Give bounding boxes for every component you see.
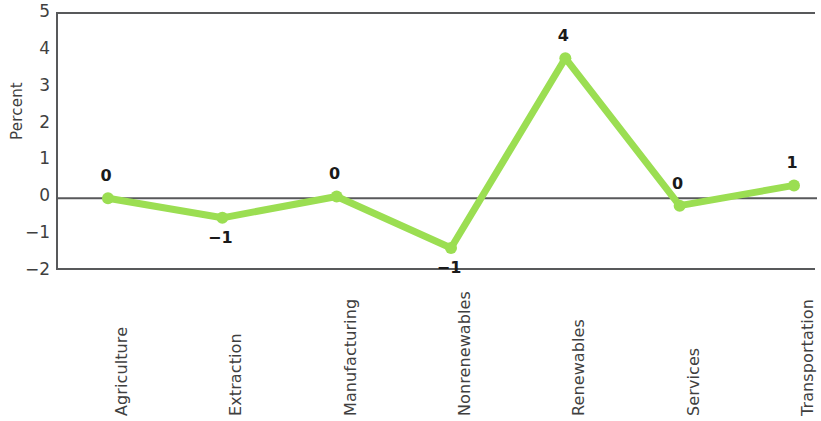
data-point-label: 0	[305, 166, 365, 182]
data-point-marker	[331, 190, 343, 202]
x-axis-category-label: Agriculture	[112, 327, 131, 416]
data-point-label: −1	[419, 260, 479, 276]
data-point-label: 4	[533, 28, 593, 44]
y-axis-tick-label: −2	[6, 261, 50, 278]
x-axis-category-label: Extraction	[226, 333, 245, 416]
y-axis-tick-label: 2	[6, 114, 50, 131]
data-point-label: 0	[648, 176, 708, 192]
y-axis-tick-label: 0	[6, 187, 50, 204]
x-axis-category-labels: AgricultureExtractionManufacturingNonren…	[56, 272, 815, 421]
x-axis-category-label: Manufacturing	[341, 299, 360, 416]
x-axis-category-label: Renewables	[569, 319, 588, 416]
data-point-label: 1	[762, 155, 821, 171]
data-point-marker	[102, 192, 114, 204]
data-point-marker	[788, 179, 800, 191]
x-axis-category-label: Nonrenewables	[455, 291, 474, 416]
data-point-marker	[216, 212, 228, 224]
y-axis-tick-label: 3	[6, 77, 50, 94]
x-axis-category-label: Transportation	[798, 299, 817, 416]
y-axis-tick-label: 4	[6, 40, 50, 57]
data-point-label: 0	[76, 168, 136, 184]
data-point-marker	[674, 200, 686, 212]
y-axis-tick-label: −1	[6, 224, 50, 241]
y-axis-tick-label: 1	[6, 150, 50, 167]
data-point-label: −1	[190, 230, 250, 246]
series-line	[108, 58, 794, 248]
plot-svg	[58, 14, 817, 272]
x-axis-category-label: Services	[684, 348, 703, 416]
data-point-marker	[559, 52, 571, 64]
y-axis-tick-labels: 543210−1−2	[0, 0, 50, 421]
y-axis-tick-label: 5	[6, 3, 50, 20]
data-point-marker	[445, 242, 457, 254]
plot-area	[56, 12, 815, 270]
